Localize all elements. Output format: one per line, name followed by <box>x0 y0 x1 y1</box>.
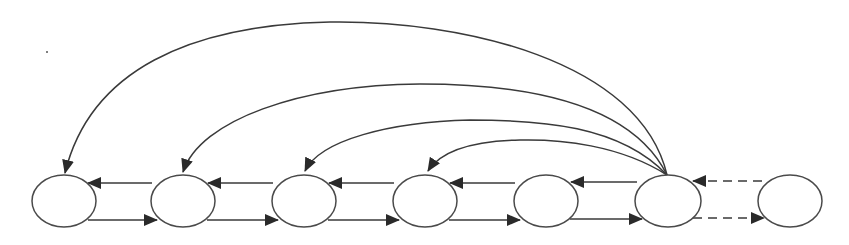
node-2 <box>151 175 215 227</box>
node-7 <box>758 175 822 227</box>
arc-n6-to-n4 <box>428 140 667 175</box>
arc-n6-to-n3 <box>305 120 667 175</box>
long-range-arcs <box>65 22 667 175</box>
arc-n6-to-n1 <box>65 22 667 175</box>
speck-mark <box>46 51 48 53</box>
node-3 <box>272 175 336 227</box>
node-1 <box>32 175 96 227</box>
linked-list-diagram <box>0 0 849 245</box>
node-4 <box>393 175 457 227</box>
node-5 <box>514 175 578 227</box>
arc-n6-to-n2 <box>183 84 667 175</box>
node-6 <box>635 175 701 227</box>
